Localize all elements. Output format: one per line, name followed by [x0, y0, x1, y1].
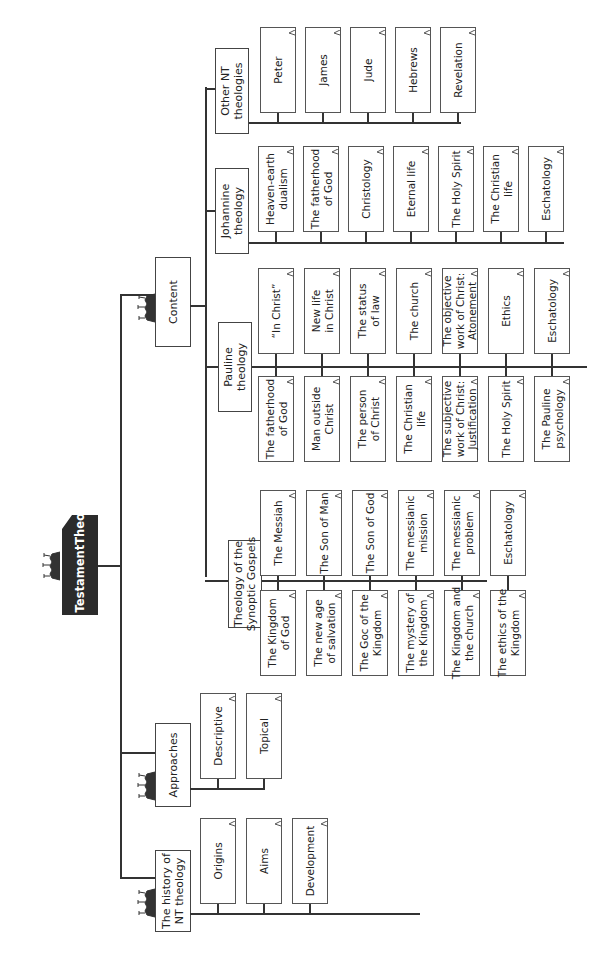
node-label-line: The Christian: [489, 154, 502, 224]
node-label: The objectivework of Christ:Atonement: [441, 273, 479, 350]
connector-line: [277, 581, 279, 590]
node-label-line: The mystery of: [404, 593, 417, 672]
synoptic-bottom-item[interactable]: The Kingdomof God: [260, 590, 296, 676]
branch-content[interactable]: Content: [155, 257, 191, 347]
church-silhouette-icon: [133, 885, 155, 919]
pauline-top-item[interactable]: The church: [396, 268, 432, 354]
connector-line: [507, 581, 509, 590]
synoptic-top-item[interactable]: The messianicproblem: [444, 490, 480, 576]
synoptic-top-item[interactable]: Eschatology: [490, 490, 526, 576]
node-label-line: The Christian: [402, 384, 415, 454]
root-connector: [98, 565, 121, 567]
johannine-item[interactable]: Heaven-earthdualism: [258, 146, 294, 232]
connector-line: [365, 232, 367, 242]
synoptic-top-item[interactable]: The Son of God: [352, 490, 388, 576]
johannine-item[interactable]: Eschatology: [528, 146, 564, 232]
node-label: The Christianlife: [402, 384, 427, 454]
synoptic-bottom-item[interactable]: The mystery ofthe Kingdom: [398, 590, 434, 676]
sub-branch-synoptic-gospels[interactable]: Theology of theSynoptic Gospels: [228, 540, 262, 628]
pauline-top-item[interactable]: The objectivework of Christ:Atonement: [442, 268, 478, 354]
page-curl-icon: [380, 493, 388, 501]
synoptic-top-item[interactable]: The Son of Man: [306, 490, 342, 576]
connector-line: [323, 581, 325, 590]
node-label-line: Man outside: [310, 387, 323, 451]
synoptic-top-item[interactable]: The Messiah: [260, 490, 296, 576]
node-label: Revelation: [452, 42, 465, 97]
pauline-bottom-item[interactable]: The fatherhoodof God: [258, 376, 294, 462]
node-label-line: of God: [276, 379, 289, 460]
node-label-line: Kingdom: [370, 594, 383, 671]
synoptic-top-item[interactable]: The messianicmission: [398, 490, 434, 576]
node-label: Eschatology: [540, 157, 553, 221]
johannine-item[interactable]: Eternal life: [393, 146, 429, 232]
page-curl-icon: [331, 149, 339, 157]
node-label: The Messiah: [272, 500, 285, 565]
page-curl-icon: [286, 379, 294, 387]
pauline-top-item[interactable]: New lifein Christ: [304, 268, 340, 354]
node-label: Peter: [272, 56, 285, 83]
connector-line: [277, 113, 279, 123]
other-children-bus: [249, 122, 461, 124]
node-label-line: Theology: [73, 485, 87, 544]
node-label: The statusof law: [356, 283, 381, 338]
connector-line: [205, 580, 229, 582]
approaches-child-descriptive[interactable]: Descriptive: [200, 693, 236, 779]
synoptic-bottom-item[interactable]: The Goc of theKingdom: [352, 590, 388, 676]
pauline-top-item[interactable]: The statusof law: [350, 268, 386, 354]
other-nt-item-jude[interactable]: Jude: [350, 27, 386, 113]
johannine-item[interactable]: Christology: [348, 146, 384, 232]
page-curl-icon: [274, 696, 282, 704]
pauline-top-item[interactable]: “In Christ”: [258, 268, 294, 354]
node-label-line: James: [317, 54, 330, 86]
connector-line: [263, 779, 265, 789]
connector-line: [120, 752, 155, 754]
sub-branch-pauline-theology[interactable]: Paulinetheology: [218, 322, 252, 412]
branch-approaches[interactable]: Approaches: [155, 723, 191, 807]
branch-history-of-nt-theology[interactable]: The history ofNT theology: [155, 850, 191, 932]
johannine-item[interactable]: The fatherhoodof God: [303, 146, 339, 232]
other-nt-item-revelation[interactable]: Revelation: [440, 27, 476, 113]
johannine-item[interactable]: The Holy Spirit: [438, 146, 474, 232]
history-child-aims[interactable]: Aims: [246, 818, 282, 904]
node-label-line: Eschatology: [546, 279, 559, 343]
page-curl-icon: [332, 271, 340, 279]
pauline-bottom-item[interactable]: Man outsideChrist: [304, 376, 340, 462]
pauline-bottom-item[interactable]: The Paulinepsychology: [534, 376, 570, 462]
node-label-line: The person: [356, 390, 369, 449]
history-child-development[interactable]: Development: [292, 818, 328, 904]
node-label-line: The new age: [312, 599, 325, 666]
history-child-origins[interactable]: Origins: [200, 818, 236, 904]
connector-line: [205, 366, 219, 368]
other-nt-item-peter[interactable]: Peter: [260, 27, 296, 113]
node-label-line: psychology: [552, 389, 565, 450]
page-curl-icon: [518, 593, 526, 601]
node-label-line: of salvation: [324, 599, 337, 666]
johannine-item[interactable]: The Christianlife: [483, 146, 519, 232]
connector-line: [321, 354, 323, 366]
connector-line: [413, 354, 415, 366]
synoptic-bottom-item[interactable]: The ethics of theKingdom: [490, 590, 526, 676]
other-nt-item-hebrews[interactable]: Hebrews: [395, 27, 431, 113]
root-node-new-testament-theology[interactable]: New TestamentTheology: [62, 515, 98, 615]
page-curl-icon: [424, 379, 432, 387]
node-label-line: Ethics: [500, 295, 513, 327]
pauline-top-item[interactable]: Eschatology: [534, 268, 570, 354]
pauline-bottom-item[interactable]: The Christianlife: [396, 376, 432, 462]
node-label: The church: [408, 282, 421, 340]
approaches-child-topical[interactable]: Topical: [246, 693, 282, 779]
node-label-line: Peter: [272, 56, 285, 83]
synoptic-bottom-item[interactable]: The Kingdom andthe church: [444, 590, 480, 676]
node-label: Heaven-earthdualism: [264, 153, 289, 225]
other-nt-item-james[interactable]: James: [305, 27, 341, 113]
pauline-bottom-item[interactable]: The subjectivework of Christ:Justificati…: [442, 376, 478, 462]
synoptic-bottom-item[interactable]: The new ageof salvation: [306, 590, 342, 676]
node-label-line: The messianic: [404, 495, 417, 570]
pauline-top-item[interactable]: Ethics: [488, 268, 524, 354]
page-curl-icon: [562, 271, 570, 279]
pauline-bottom-item[interactable]: The Holy Spirit: [488, 376, 524, 462]
pauline-bottom-item[interactable]: The personof Christ: [350, 376, 386, 462]
sub-branch-johannine-theology[interactable]: Johanninetheology: [215, 168, 249, 254]
page-curl-icon: [380, 593, 388, 601]
node-label-line: Pauline: [222, 343, 235, 391]
sub-branch-other-nt-theologies[interactable]: Other NTtheologies: [215, 48, 249, 134]
